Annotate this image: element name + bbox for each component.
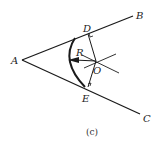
label-e: E	[81, 93, 90, 104]
ray-ac	[22, 60, 140, 114]
label-a: A	[10, 55, 18, 66]
label-r: R	[75, 47, 84, 58]
label-o: O	[93, 65, 101, 76]
figure-caption: (c)	[86, 127, 98, 137]
label-d: D	[82, 23, 91, 34]
label-b: B	[135, 10, 143, 21]
label-c: C	[143, 113, 151, 124]
segment-od	[88, 34, 96, 61]
